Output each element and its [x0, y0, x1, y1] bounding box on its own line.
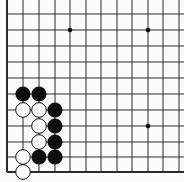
board-intersection[interactable] [0, 7, 14, 21]
board-intersection[interactable] [63, 103, 77, 117]
board-intersection[interactable] [79, 119, 93, 133]
board-intersection[interactable] [141, 39, 155, 53]
board-intersection[interactable] [110, 150, 124, 164]
board-intersection[interactable] [110, 87, 124, 101]
board-intersection[interactable] [63, 165, 77, 179]
board-intersection[interactable] [141, 71, 155, 85]
board-intersection[interactable] [79, 71, 93, 85]
board-intersection[interactable] [110, 119, 124, 133]
board-intersection[interactable] [156, 7, 170, 21]
board-intersection[interactable] [16, 39, 30, 53]
board-intersection[interactable] [172, 119, 184, 133]
board-intersection[interactable] [94, 71, 108, 85]
board-intersection[interactable] [94, 23, 108, 37]
board-intersection[interactable] [94, 135, 108, 149]
board-intersection[interactable] [125, 103, 139, 117]
board-intersection[interactable] [141, 135, 155, 149]
board-intersection[interactable] [110, 135, 124, 149]
board-intersection[interactable] [32, 71, 46, 85]
board-intersection[interactable] [172, 71, 184, 85]
board-intersection[interactable] [16, 55, 30, 69]
board-intersection[interactable] [110, 39, 124, 53]
board-intersection[interactable] [32, 39, 46, 53]
board-intersection[interactable] [63, 71, 77, 85]
board-intersection[interactable] [141, 103, 155, 117]
board-intersection[interactable] [79, 87, 93, 101]
board-intersection[interactable] [48, 71, 62, 85]
board-intersection[interactable] [32, 165, 46, 179]
board-intersection[interactable] [32, 23, 46, 37]
board-intersection[interactable] [63, 119, 77, 133]
board-intersection[interactable] [63, 87, 77, 101]
board-intersection[interactable] [125, 23, 139, 37]
board-intersection[interactable] [156, 39, 170, 53]
board-intersection[interactable] [79, 39, 93, 53]
board-intersection[interactable] [0, 23, 14, 37]
board-intersection[interactable] [172, 165, 184, 179]
board-intersection[interactable] [141, 87, 155, 101]
board-intersection[interactable] [63, 135, 77, 149]
board-intersection[interactable] [125, 7, 139, 21]
board-intersection[interactable] [94, 165, 108, 179]
board-intersection[interactable] [63, 39, 77, 53]
board-intersection[interactable] [125, 165, 139, 179]
board-intersection[interactable] [156, 87, 170, 101]
board-intersection[interactable] [16, 71, 30, 85]
board-intersection[interactable] [141, 150, 155, 164]
board-intersection[interactable] [48, 165, 62, 179]
board-intersection[interactable] [94, 39, 108, 53]
board-intersection[interactable] [141, 55, 155, 69]
board-intersection[interactable] [172, 39, 184, 53]
board-intersection[interactable] [156, 119, 170, 133]
board-intersection[interactable] [79, 165, 93, 179]
board-intersection[interactable] [125, 71, 139, 85]
board-intersection[interactable] [172, 55, 184, 69]
board-intersection[interactable] [156, 150, 170, 164]
board-intersection[interactable] [172, 103, 184, 117]
board-intersection[interactable] [156, 71, 170, 85]
board-intersection[interactable] [156, 135, 170, 149]
board-intersection[interactable] [0, 71, 14, 85]
board-intersection[interactable] [32, 55, 46, 69]
board-intersection[interactable] [156, 23, 170, 37]
board-intersection[interactable] [172, 135, 184, 149]
board-intersection[interactable] [79, 55, 93, 69]
board-intersection[interactable] [172, 150, 184, 164]
board-intersection[interactable] [16, 119, 30, 133]
board-intersection[interactable] [63, 23, 77, 37]
board-intersection[interactable] [94, 150, 108, 164]
board-intersection[interactable] [48, 39, 62, 53]
board-intersection[interactable] [141, 23, 155, 37]
board-intersection[interactable] [110, 23, 124, 37]
board-intersection[interactable] [141, 119, 155, 133]
board-intersection[interactable] [16, 135, 30, 149]
board-intersection[interactable] [125, 150, 139, 164]
board-intersection[interactable] [79, 135, 93, 149]
board-intersection[interactable] [16, 23, 30, 37]
board-intersection[interactable] [48, 7, 62, 21]
board-intersection[interactable] [141, 7, 155, 21]
board-intersection[interactable] [0, 39, 14, 53]
board-intersection[interactable] [0, 150, 14, 164]
board-intersection[interactable] [110, 55, 124, 69]
board-intersection[interactable] [48, 87, 62, 101]
board-intersection[interactable] [0, 165, 14, 179]
board-intersection[interactable] [125, 87, 139, 101]
board-intersection[interactable] [172, 87, 184, 101]
board-intersection[interactable] [16, 7, 30, 21]
board-intersection[interactable] [125, 55, 139, 69]
board-intersection[interactable] [32, 7, 46, 21]
board-intersection[interactable] [63, 7, 77, 21]
board-intersection[interactable] [172, 7, 184, 21]
board-intersection[interactable] [125, 119, 139, 133]
board-intersection[interactable] [94, 87, 108, 101]
board-intersection[interactable] [94, 119, 108, 133]
board-intersection[interactable] [48, 23, 62, 37]
board-intersection[interactable] [156, 165, 170, 179]
board-intersection[interactable] [125, 39, 139, 53]
board-intersection[interactable] [110, 71, 124, 85]
board-intersection[interactable] [125, 135, 139, 149]
board-intersection[interactable] [0, 119, 14, 133]
board-intersection[interactable] [79, 7, 93, 21]
board-intersection[interactable] [0, 135, 14, 149]
